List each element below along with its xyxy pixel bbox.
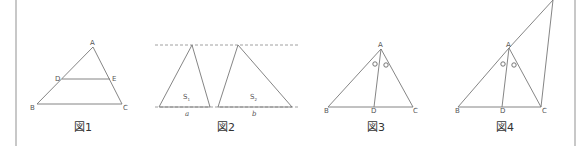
triangle-abc xyxy=(328,49,413,107)
triangle-abc xyxy=(458,48,541,107)
label-a: A xyxy=(90,39,95,47)
figure-4: A B D C 図4 xyxy=(455,0,553,134)
label-e: E xyxy=(112,75,116,83)
figure-1: A B C D E 図1 xyxy=(30,39,128,134)
angle-mark-circle-right xyxy=(512,63,516,67)
label-s1: S1 xyxy=(183,93,190,102)
angle-mark-circle-right xyxy=(384,63,388,67)
triangle-abc xyxy=(37,47,122,104)
label-base-a: a xyxy=(185,110,189,118)
label-base-b: b xyxy=(252,110,257,118)
label-a: A xyxy=(378,41,383,49)
bisector-ad xyxy=(502,48,509,107)
angle-mark-circle-left xyxy=(373,62,377,66)
label-d: D xyxy=(55,75,60,83)
label-b: B xyxy=(324,107,329,115)
label-d: D xyxy=(371,107,376,115)
label-d: D xyxy=(500,107,505,115)
label-a: A xyxy=(506,41,511,49)
label-c: C xyxy=(413,107,418,115)
caption-fig3: 図3 xyxy=(367,121,385,134)
diagram-canvas: A B C D E 図1 S1 S2 a b 図2 A B D C 図3 xyxy=(0,0,580,146)
caption-fig4: 図4 xyxy=(496,121,514,134)
label-s2: S2 xyxy=(250,93,257,102)
label-c: C xyxy=(123,104,128,112)
label-b: B xyxy=(455,107,460,115)
angle-mark-circle-left xyxy=(501,62,505,66)
caption-fig2: 図2 xyxy=(217,121,235,134)
label-c: C xyxy=(542,107,547,115)
bisector-ad xyxy=(374,49,381,107)
label-b: B xyxy=(30,104,35,112)
figure-2: S1 S2 a b 図2 xyxy=(155,45,300,134)
extension-ba xyxy=(509,0,553,48)
caption-fig1: 図1 xyxy=(74,121,92,134)
figure-3: A B D C 図3 xyxy=(324,41,418,134)
segment-ce xyxy=(541,0,553,107)
